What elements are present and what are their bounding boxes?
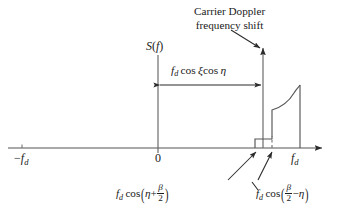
x-tick-label-neg-fd: −fd: [14, 152, 28, 167]
lower-edge-fd-sub: d: [119, 193, 123, 202]
measurement-cos-1: cos: [181, 64, 196, 76]
lower-edge-beta-over-2: β2: [157, 183, 164, 203]
spectrum-trace: [255, 85, 300, 148]
upper-edge-beta: β: [285, 183, 292, 192]
measurement-cos-2: cos: [203, 64, 218, 76]
upper-edge-open-paren: (: [281, 186, 284, 205]
leader-upper-edge: [258, 152, 272, 180]
x-tick-label-pos-fd: fd: [291, 152, 299, 167]
lower-edge-open-paren: (: [141, 186, 144, 205]
leader-lower-edge: [228, 152, 256, 180]
upper-edge-two: 2: [285, 194, 292, 203]
carrier-doppler-caption: Carrier Doppler frequency shift: [194, 4, 265, 32]
lower-edge-op: +: [150, 187, 156, 199]
measurement-fd-sub: d: [174, 69, 178, 78]
caption-line-2: frequency shift: [194, 18, 265, 32]
zero-base: 0: [155, 151, 161, 165]
y-axis-label: S(f): [146, 40, 163, 53]
lower-band-edge-label: fd cos(η+β2): [116, 183, 169, 205]
upper-edge-cos: cos: [265, 187, 280, 199]
lower-edge-beta: β: [157, 183, 164, 192]
pos-fd-sub: d: [294, 157, 298, 167]
measurement-eta: η: [220, 64, 226, 76]
upper-edge-beta-over-2: β2: [285, 183, 292, 203]
caption-leader: [231, 30, 260, 48]
y-axis-label-close: ): [159, 39, 163, 53]
neg-fd-sub: d: [24, 157, 28, 167]
upper-edge-close-paren: ): [305, 186, 308, 205]
lower-edge-cos: cos: [125, 187, 140, 199]
neg-fd-minus: −: [14, 151, 21, 165]
upper-edge-fd-sub: d: [259, 193, 263, 202]
upper-edge-eta: η: [299, 187, 305, 199]
measurement-label: fd cos ξcos η: [171, 64, 226, 79]
lower-edge-two: 2: [157, 194, 164, 203]
lower-edge-close-paren: ): [165, 186, 168, 205]
spectrum-figure: Carrier Doppler frequency shift S(f) fd …: [0, 0, 338, 212]
caption-line-1: Carrier Doppler: [194, 4, 265, 18]
upper-band-edge-label: fd cos(β2−η): [256, 183, 309, 205]
diagram-canvas: [0, 0, 338, 212]
x-tick-label-zero: 0: [155, 152, 161, 165]
